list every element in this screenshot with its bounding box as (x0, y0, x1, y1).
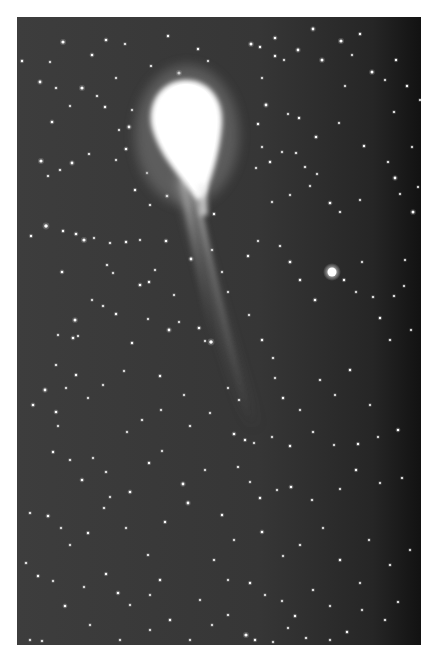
star (80, 86, 83, 89)
star (395, 59, 397, 61)
star (261, 77, 263, 79)
star (59, 169, 61, 171)
star (394, 177, 397, 180)
star (52, 580, 54, 582)
star (149, 594, 151, 596)
star (29, 639, 31, 641)
star (207, 60, 209, 62)
star (115, 159, 117, 161)
star (359, 33, 361, 35)
star (368, 539, 370, 541)
star (274, 377, 276, 379)
star (387, 161, 389, 163)
star (379, 317, 381, 319)
star (92, 457, 94, 459)
star (339, 559, 341, 561)
star (74, 319, 77, 322)
star (289, 261, 292, 264)
star (244, 439, 246, 441)
star (315, 136, 318, 139)
star (83, 586, 85, 588)
star (389, 339, 391, 341)
star (119, 639, 121, 641)
comet-photograph: Comet photograph (17, 17, 421, 645)
star (257, 240, 259, 242)
star (160, 409, 162, 411)
star (295, 152, 297, 154)
star (128, 126, 131, 129)
star (276, 489, 278, 491)
star (32, 404, 35, 407)
star (103, 507, 105, 509)
star (287, 627, 289, 629)
star (409, 549, 411, 551)
star (329, 639, 331, 641)
star (355, 469, 357, 471)
star (290, 486, 293, 489)
star (419, 99, 421, 101)
star (129, 604, 131, 606)
star (167, 35, 169, 37)
star (355, 291, 357, 293)
star (299, 279, 301, 281)
star (261, 339, 263, 341)
star (168, 329, 171, 332)
star (281, 151, 283, 153)
star (221, 271, 223, 273)
star (159, 579, 161, 581)
star (271, 201, 273, 203)
star (250, 43, 253, 46)
star (148, 281, 150, 283)
star (106, 264, 108, 266)
star (311, 499, 313, 501)
star (61, 40, 64, 43)
star (299, 409, 301, 411)
star (213, 559, 215, 561)
star (261, 146, 263, 148)
star (115, 313, 117, 315)
star (139, 284, 142, 287)
star (312, 431, 314, 433)
star (25, 562, 27, 564)
star (75, 374, 77, 376)
star (343, 279, 345, 281)
star (274, 37, 277, 40)
star (164, 521, 166, 523)
star (249, 582, 251, 584)
star (55, 411, 58, 414)
star (149, 204, 151, 206)
star (351, 54, 353, 56)
star (321, 59, 324, 62)
star (279, 245, 281, 247)
star (294, 615, 296, 617)
star (254, 639, 256, 641)
star (125, 148, 128, 151)
star (211, 624, 213, 626)
star (338, 122, 340, 124)
star (105, 39, 108, 42)
star (272, 641, 274, 643)
star (397, 429, 400, 432)
star (147, 318, 149, 320)
star (357, 443, 359, 445)
star (204, 340, 206, 342)
star (65, 387, 67, 389)
star (299, 544, 301, 546)
star (227, 387, 229, 389)
star (369, 404, 371, 406)
star-field (17, 17, 421, 645)
star (190, 258, 193, 261)
star (312, 589, 314, 591)
star (417, 186, 419, 188)
star (39, 159, 42, 162)
star (211, 249, 213, 251)
star (404, 259, 406, 261)
star (105, 471, 107, 473)
star (125, 527, 127, 529)
star (406, 85, 408, 87)
star (399, 193, 401, 195)
star (199, 599, 201, 601)
star (289, 194, 291, 196)
star (112, 272, 114, 274)
star (393, 295, 395, 297)
